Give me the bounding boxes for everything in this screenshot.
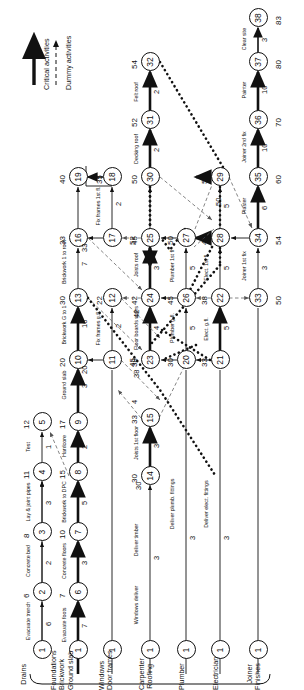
node-27[interactable]: 27 — [177, 229, 196, 248]
node-2[interactable]: 2 — [33, 583, 52, 602]
event-time-34: 54 — [274, 236, 283, 245]
trade-label-electrician: Electrician — [212, 664, 220, 690]
duration-13-16: 7 — [80, 262, 89, 266]
activity-label-deliver-timber: Deliver timber — [134, 520, 140, 560]
activity-label-decking-roof: Decking roof — [134, 130, 140, 168]
activity-label-evacuate-foots: Evacuate foots — [62, 602, 68, 648]
node-34[interactable]: 34 — [249, 229, 268, 248]
event-time-4: 11 — [22, 471, 31, 479]
event-time-8: 15 — [58, 470, 67, 479]
node-label: 10 — [73, 355, 83, 364]
node-11[interactable]: 11 — [103, 351, 122, 370]
duration-36-37: 10 — [260, 86, 269, 94]
activity-label-fix-frames-1st: Fix frames 1st fl. — [96, 184, 102, 228]
node-30[interactable]: 30 — [141, 168, 160, 187]
node-21[interactable]: 21 — [211, 351, 230, 370]
node-9[interactable]: 9 — [69, 413, 88, 432]
node-6[interactable]: 6 — [69, 583, 88, 602]
node-label: 4 — [37, 470, 47, 475]
duration-20-26: 5 — [188, 326, 197, 330]
node-label: 3 — [37, 530, 47, 535]
node-5[interactable]: 5 — [33, 413, 52, 432]
node-32[interactable]: 32 — [141, 53, 160, 72]
activity-label-test: Test — [26, 434, 32, 460]
activity-label-brickwork-g-1: Brickwork G to 1 — [62, 304, 68, 346]
node-label: 19 — [73, 172, 83, 181]
node-31[interactable]: 31 — [141, 111, 160, 130]
node-1e[interactable]: 1 — [177, 641, 196, 660]
node-13[interactable]: 13 — [69, 289, 88, 308]
event-time-35: 60 — [274, 175, 283, 184]
duration-29-30: 50 — [214, 198, 223, 206]
node-14[interactable]: 14 — [141, 467, 160, 486]
node-38[interactable]: 38 — [249, 9, 268, 28]
activity-label-elect-1st: Elect. 1st fl. — [204, 248, 210, 286]
duration-2-3: 2 — [44, 561, 53, 565]
node-label: 1 — [37, 648, 47, 653]
trade-label-windows: WindowsDoor frames — [98, 664, 115, 690]
duration-11-12: 2 — [114, 324, 123, 328]
node-label: 17 — [107, 233, 117, 242]
event-time-32: 54 — [130, 60, 139, 69]
node-33[interactable]: 33 — [249, 289, 268, 308]
node-label: 28 — [215, 233, 225, 242]
node-18[interactable]: 18 — [103, 168, 122, 187]
activity-label-plumber-1st: Plumber 1st fl — [170, 244, 176, 288]
node-label: 12 — [107, 293, 117, 302]
event-time-30: 50 — [130, 175, 139, 184]
node-25[interactable]: 25 — [141, 229, 160, 248]
event-time-26: 45 — [166, 296, 175, 305]
node-26[interactable]: 26 — [177, 289, 196, 308]
node-label: 22 — [215, 293, 225, 302]
duration-26-27: 5 — [188, 266, 197, 270]
node-label: 1 — [181, 648, 191, 653]
duration-34-35: 6 — [260, 206, 269, 210]
node-12[interactable]: 12 — [103, 289, 122, 308]
activity-label-plaster: Plaster — [242, 188, 248, 224]
node-24[interactable]: 24 — [141, 289, 160, 308]
diagram-canvas: 1 2 3 4 5 1 6 7 8 9 10 13 16 19 1 11 12 … — [0, 0, 304, 690]
node-28[interactable]: 28 — [211, 229, 230, 248]
node-15[interactable]: 15 — [141, 409, 160, 428]
node-3[interactable]: 3 — [33, 523, 52, 542]
duration-9-10: 3 — [80, 384, 89, 388]
node-4[interactable]: 4 — [33, 463, 52, 482]
node-23[interactable]: 23 — [141, 351, 160, 370]
node-label: 9 — [73, 420, 83, 425]
node-20[interactable]: 20 — [177, 351, 196, 370]
node-37[interactable]: 37 — [249, 53, 268, 72]
node-1g[interactable]: 1 — [249, 641, 268, 660]
event-time-18: 35 — [95, 175, 104, 184]
activity-label-hardcore: Hardcore — [62, 430, 68, 462]
node-label: 13 — [73, 293, 83, 302]
node-19[interactable]: 19 — [69, 168, 88, 187]
event-time-19: 40 — [58, 175, 67, 184]
node-label: 23 — [145, 355, 155, 364]
event-time-31: 52 — [130, 118, 139, 127]
node-8[interactable]: 8 — [69, 463, 88, 482]
activity-label-ground-slab: Ground slab — [62, 368, 68, 402]
event-time-28: 45 — [200, 236, 209, 245]
activity-label-fix-frames-gfl: Fix frames g.fl. — [96, 306, 102, 350]
node-7[interactable]: 7 — [69, 523, 88, 542]
duration-17-18: 2 — [114, 202, 123, 206]
trade-label-carpenter: CarpenterRoofing — [138, 664, 155, 690]
node-36[interactable]: 36 — [249, 111, 268, 130]
node-29[interactable]: 29 — [211, 168, 230, 187]
legend-dummy-label: Dummy activities — [64, 36, 73, 90]
node-label: 11 — [107, 356, 117, 365]
duration-1-6: 7 — [80, 624, 89, 628]
legend-icons — [20, 10, 90, 90]
node-label: 24 — [145, 293, 155, 302]
node-22[interactable]: 22 — [211, 289, 230, 308]
event-time-22: 38 — [200, 296, 209, 305]
duration-1-21: 3 — [222, 536, 231, 540]
node-35[interactable]: 35 — [249, 168, 268, 187]
network-diagram-page: 1 2 3 4 5 1 6 7 8 9 10 13 16 19 1 11 12 … — [0, 0, 304, 690]
event-time-36: 70 — [274, 118, 283, 127]
node-1d[interactable]: 1 — [141, 641, 160, 660]
node-label: 32 — [145, 57, 155, 66]
event-time-20: 30 — [166, 358, 175, 367]
node-17[interactable]: 17 — [103, 229, 122, 248]
activity-label-brickwork-dpc: Brickwork to DPC — [62, 480, 68, 524]
